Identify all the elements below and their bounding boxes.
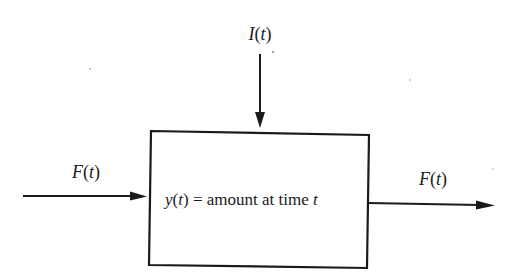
scan-speck — [89, 68, 91, 70]
scan-speck — [492, 168, 493, 169]
arrowhead-right-icon — [130, 192, 147, 201]
outflow-right-label: F(t) — [418, 169, 447, 190]
arrowhead-right-icon — [476, 201, 495, 210]
compartment-label: y(t) = amount at time t — [163, 190, 319, 209]
paren-close: ) — [441, 169, 447, 190]
inflow-left-arrow — [23, 192, 147, 201]
compartment-label-tail: t — [313, 190, 319, 209]
inflow-top-label: I(t) — [247, 24, 271, 45]
compartment-diagram: y(t) = amount at time t I(t) F(t) F(t) — [0, 0, 521, 278]
inflow-left-label: F(t) — [71, 162, 100, 183]
compartment-label-eq: = amount at time — [189, 190, 313, 209]
outflow-right-arrow — [368, 201, 495, 210]
paren-close: ) — [266, 24, 272, 45]
compartment-label-var: y — [163, 190, 173, 209]
paren-close: ) — [94, 162, 100, 183]
inflow-top-arrow — [255, 54, 265, 128]
arrowhead-down-icon — [255, 112, 265, 128]
scan-speck — [409, 79, 410, 80]
outflow-right-shaft — [368, 203, 480, 205]
scan-speck — [272, 51, 274, 53]
